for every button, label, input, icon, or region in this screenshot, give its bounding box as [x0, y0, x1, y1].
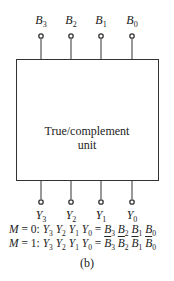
input-label-b0: B0 — [126, 14, 137, 31]
input-label-b1: B1 — [95, 14, 106, 31]
output-terminal-y1 — [99, 200, 103, 204]
unit-label-line1: True/complement — [16, 124, 158, 138]
output-terminal-y3 — [39, 200, 43, 204]
input-label-b2: B2 — [65, 14, 76, 31]
input-terminal-b3 — [39, 34, 43, 38]
unit-label: True/complement unit — [16, 124, 158, 152]
input-label-b3: B3 — [35, 14, 46, 31]
output-terminal-y0 — [130, 200, 134, 204]
true-complement-unit-box — [17, 60, 159, 181]
equation-m0: M = 0: Y3 Y2 Y1 Y0 = B3 B2 B1 B0 — [9, 223, 156, 238]
input-terminal-b0 — [130, 34, 134, 38]
unit-label-line2: unit — [16, 138, 158, 152]
figure-caption: (b) — [0, 256, 174, 271]
input-terminal-b1 — [99, 34, 103, 38]
equation-m1: M = 1: Y3 Y2 Y1 Y0 = B3 B2 B1 B0 — [9, 237, 156, 252]
input-terminal-b2 — [69, 34, 73, 38]
output-terminal-y2 — [69, 200, 73, 204]
